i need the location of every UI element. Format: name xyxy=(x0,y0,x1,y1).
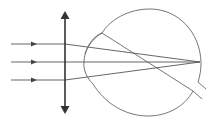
optic-nerve-lower xyxy=(193,91,202,99)
incoming-rays xyxy=(11,44,65,80)
eye-lens-diagram xyxy=(0,0,215,122)
lens-top-arrow-icon xyxy=(61,11,70,19)
refracted-rays xyxy=(65,44,200,80)
cornea xyxy=(85,33,102,54)
optic-nerve-upper xyxy=(198,82,206,89)
eyeball-outline xyxy=(84,9,201,116)
lens-bottom-arrow-icon xyxy=(61,106,70,114)
ray-arrow-icons xyxy=(31,42,37,83)
